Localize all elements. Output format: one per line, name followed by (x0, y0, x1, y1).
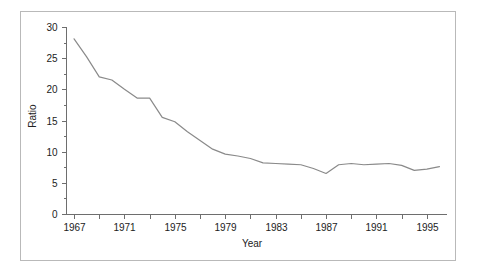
x-axis: 19671971197519791983198719911995 Year (63, 214, 447, 249)
y-tick-label: 25 (46, 53, 58, 64)
y-tick-label: 10 (46, 147, 58, 158)
y-tick-label: 0 (52, 209, 58, 220)
y-tick-label: 30 (46, 22, 58, 33)
line-chart-plot: 051015202530 Ratio 196719711975197919831… (0, 0, 477, 276)
y-axis-title: Ratio (27, 104, 38, 128)
x-tick-label: 1971 (113, 222, 136, 233)
chart-figure: 051015202530 Ratio 196719711975197919831… (0, 0, 477, 276)
y-tick-label: 15 (46, 116, 58, 127)
x-tick-label: 1979 (214, 222, 237, 233)
y-axis: 051015202530 Ratio (27, 22, 67, 220)
x-tick-label: 1987 (315, 222, 338, 233)
x-tick-label: 1991 (365, 222, 388, 233)
y-tick-label: 20 (46, 84, 58, 95)
x-tick-label: 1975 (164, 222, 187, 233)
x-tick-label: 1983 (265, 222, 288, 233)
x-axis-title: Year (242, 238, 263, 249)
x-axis-tick-labels: 19671971197519791983198719911995 (63, 222, 439, 233)
y-axis-ticks (62, 28, 67, 215)
y-tick-label: 5 (52, 178, 58, 189)
y-axis-tick-labels: 051015202530 (46, 22, 58, 220)
x-tick-label: 1967 (63, 222, 86, 233)
data-series-line (74, 39, 439, 174)
x-tick-label: 1995 (416, 222, 439, 233)
